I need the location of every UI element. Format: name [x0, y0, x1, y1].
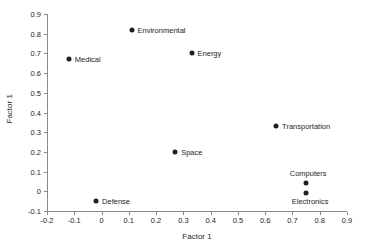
y-tick-label: 0.2 [31, 147, 41, 156]
data-point-label: Transportation [282, 122, 330, 131]
data-point-label: Electronics [292, 197, 329, 206]
x-tick-label: 0.3 [178, 216, 188, 225]
x-tick [102, 212, 103, 215]
y-tick [44, 211, 47, 212]
y-tick [44, 93, 47, 94]
x-axis-title: Factor 1 [182, 232, 211, 241]
y-axis-title: Factor 1 [5, 110, 14, 124]
x-tick-label: 0.9 [342, 216, 352, 225]
x-tick [211, 212, 212, 215]
y-tick-label: -0.1 [28, 207, 41, 216]
data-point-label: Energy [198, 49, 222, 58]
data-point-marker[interactable] [189, 51, 194, 56]
x-tick [347, 212, 348, 215]
y-tick-label: 0.5 [31, 88, 41, 97]
data-point-label: Medical [75, 55, 101, 64]
y-tick [44, 53, 47, 54]
y-tick [44, 73, 47, 74]
y-axis-line [47, 14, 48, 211]
x-tick [74, 212, 75, 215]
y-tick-label: 0.3 [31, 128, 41, 137]
data-point-marker[interactable] [94, 199, 99, 204]
x-tick [156, 212, 157, 215]
data-point-marker[interactable] [173, 149, 178, 154]
x-axis-line [47, 211, 347, 212]
y-tick [44, 34, 47, 35]
x-tick-label: -0.2 [41, 216, 54, 225]
x-tick-label: 0.8 [315, 216, 325, 225]
y-tick-label: 0.7 [31, 49, 41, 58]
scatter-plot: -0.2-0.100.10.20.30.40.50.60.70.80.9 -0.… [0, 0, 368, 252]
data-point-marker[interactable] [66, 57, 71, 62]
x-tick-label: -0.1 [68, 216, 81, 225]
data-point-label: Computers [290, 169, 327, 178]
y-tick [44, 132, 47, 133]
x-tick [129, 212, 130, 215]
y-tick-label: 0.4 [31, 108, 41, 117]
data-point-label: Defense [102, 197, 130, 206]
x-tick-label: 0.2 [151, 216, 161, 225]
x-tick [320, 212, 321, 215]
x-tick [183, 212, 184, 215]
data-point-marker[interactable] [129, 27, 134, 32]
y-tick [44, 191, 47, 192]
x-tick-label: 0.7 [287, 216, 297, 225]
x-tick [238, 212, 239, 215]
y-tick [44, 14, 47, 15]
x-tick-label: 0.4 [205, 216, 215, 225]
x-tick [292, 212, 293, 215]
y-tick-label: 0.8 [31, 29, 41, 38]
y-tick-label: 0.9 [31, 10, 41, 19]
x-tick-label: 0.5 [233, 216, 243, 225]
x-tick [47, 212, 48, 215]
y-tick [44, 113, 47, 114]
y-tick-label: 0.1 [31, 167, 41, 176]
y-tick [44, 152, 47, 153]
data-point-label: Environmental [138, 25, 186, 34]
data-point-marker[interactable] [304, 181, 309, 186]
x-tick-label: 0.1 [124, 216, 134, 225]
data-point-label: Space [181, 147, 202, 156]
x-tick-label: 0 [99, 216, 103, 225]
x-tick-label: 0.6 [260, 216, 270, 225]
y-tick-label: 0 [37, 187, 41, 196]
data-point-marker[interactable] [274, 124, 279, 129]
x-tick [265, 212, 266, 215]
y-tick [44, 172, 47, 173]
y-tick-label: 0.6 [31, 69, 41, 78]
data-point-marker[interactable] [304, 191, 309, 196]
